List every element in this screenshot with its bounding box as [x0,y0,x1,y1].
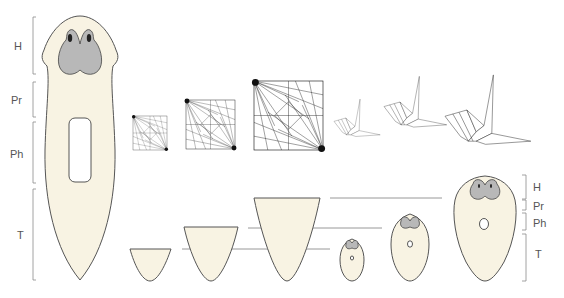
crane-shape [334,99,380,136]
right-region-labels: H Pr Ph T [533,181,546,260]
eye-left [478,184,480,188]
crease-pattern-large [252,79,325,152]
crease-pattern-small [132,115,168,151]
worm-pharynx [69,118,91,182]
label-pharynx: Ph [533,217,546,229]
bracket-pharynx [33,122,36,183]
intact-planarian [42,16,118,280]
regenerated-worm-medium [391,214,429,281]
worm-pharynx [350,256,353,260]
regeneration-diagram: H Pr Ph T [0,0,564,298]
crease-pattern-medium [185,99,237,151]
label-prepharyngeal: Pr [533,200,544,212]
eye-left [68,34,72,42]
right-region-brackets [522,175,526,281]
label-pharynx: Ph [10,148,23,160]
eye-right [490,184,492,188]
label-prepharyngeal: Pr [11,94,22,106]
tail-fragment-large [254,198,320,281]
bracket-tail [522,234,526,281]
left-region-labels: H Pr Ph T [10,40,24,241]
tail-fragment-medium [184,227,238,281]
tail-fragments [130,198,320,281]
crane-small [334,99,380,136]
label-tail: T [535,248,542,260]
tail-fragment-small [130,249,171,281]
crane-shape [445,75,531,144]
bracket-head [522,175,526,199]
regenerated-worm-large [454,176,516,281]
crane-shape [384,76,447,127]
label-head: H [14,40,22,52]
label-head: H [533,181,541,193]
bracket-prepharyngeal [522,200,526,210]
left-region-brackets [33,17,36,280]
crane-large [445,75,531,144]
worm-pharynx [408,241,413,247]
bracket-pharynx [522,213,526,230]
worm-pharynx [480,219,489,230]
bracket-prepharyngeal [33,82,36,117]
bracket-head [33,17,36,74]
bracket-tail [33,189,36,280]
regenerated-worm-small [340,239,364,281]
label-tail: T [17,229,24,241]
eye-right [87,34,91,42]
crane-medium [384,76,447,127]
